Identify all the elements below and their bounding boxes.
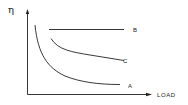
efficiency-vs-load-diagram (0, 0, 188, 105)
curve-label-b: B (133, 27, 138, 33)
curve-c (51, 39, 124, 61)
x-axis-label: LOAD (157, 92, 176, 98)
curve-label-c: C (123, 58, 128, 64)
y-axis-arrowhead (26, 9, 29, 14)
x-axis-arrowhead (146, 93, 152, 96)
y-axis-label: η (8, 5, 14, 15)
curve-a (35, 25, 120, 85)
curve-label-a: A (128, 83, 133, 89)
